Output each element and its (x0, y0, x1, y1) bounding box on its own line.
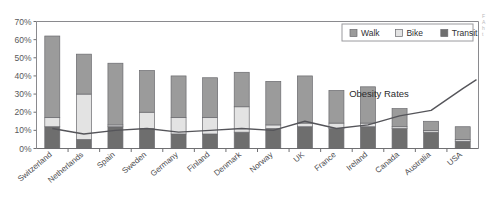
legend-swatch-walk (350, 30, 357, 37)
legend-swatch-transit (441, 30, 448, 37)
bar-segment-bike (203, 118, 218, 134)
bar-segment-walk (171, 76, 186, 118)
bar-segment-transit (424, 132, 439, 148)
bar-segment-transit (203, 134, 218, 149)
y-tick-label: 0% (19, 144, 32, 154)
bar-segment-walk (108, 63, 123, 125)
chart-container: 0%10%20%30%40%50%60%70% SwitzerlandNethe… (0, 0, 490, 204)
bar-segment-walk (76, 54, 91, 94)
bar-segment-transit (171, 134, 186, 149)
bar-segment-transit (392, 129, 407, 149)
annotation-label: Obesity Rates (349, 88, 409, 99)
y-tick-label: 10% (14, 125, 31, 135)
bar-segment-walk (203, 78, 218, 118)
bar-segment-walk (140, 70, 155, 112)
bar-segment-walk (329, 90, 344, 123)
y-tick-label: 50% (14, 53, 31, 63)
y-tick-label: 30% (14, 89, 31, 99)
chart-legend[interactable]: WalkBikeTransit (342, 24, 478, 41)
legend-label-transit[interactable]: Transit (452, 28, 478, 38)
transport-modeshare-obesity-chart: 0%10%20%30%40%50%60%70% SwitzerlandNethe… (0, 0, 490, 204)
obesity-rates-annotation: Obesity Rates (349, 88, 409, 99)
bar-segment-bike (45, 118, 60, 127)
bar-segment-transit (140, 129, 155, 149)
bar-segment-walk (455, 127, 470, 140)
y-tick-label: 60% (14, 35, 31, 45)
bar-segment-transit (361, 127, 376, 149)
bar-segment-walk (297, 76, 312, 123)
legend-label-bike[interactable]: Bike (406, 28, 423, 38)
bar-segment-bike (266, 125, 281, 129)
bar-segment-walk (424, 121, 439, 130)
bar-segment-walk (266, 81, 281, 125)
bar-segment-transit (266, 129, 281, 149)
bar-segment-transit (297, 127, 312, 149)
y-tick-label: 40% (14, 71, 31, 81)
bar-segment-walk (45, 36, 60, 118)
y-tick-label: 20% (14, 107, 31, 117)
bar-segment-bike (297, 123, 312, 127)
bar-segment-transit (234, 132, 249, 148)
bar-segment-walk (234, 72, 249, 106)
y-tick-label: 70% (14, 17, 31, 27)
legend-swatch-bike (395, 30, 402, 37)
legend-label-walk[interactable]: Walk (361, 28, 380, 38)
bar-segment-bike (140, 112, 155, 128)
bar-segment-transit (455, 141, 470, 148)
bar-segment-transit (329, 129, 344, 149)
bar-segment-transit (76, 139, 91, 148)
